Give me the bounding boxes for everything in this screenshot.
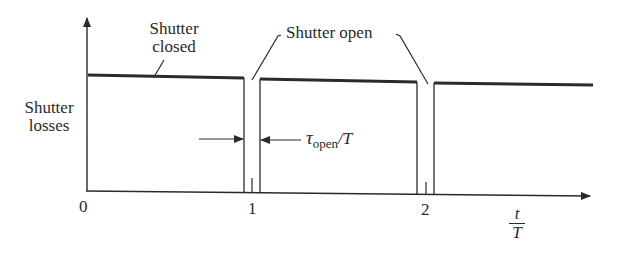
tau-over-T: /T [338,129,352,148]
tau-subscript: open [313,136,338,151]
closed-leader [154,60,164,77]
tick-label-1: 1 [248,200,257,218]
tick-label-2: 2 [421,201,430,219]
tick-label-0: 0 [79,198,88,216]
x-axis [86,191,590,196]
shutter-loss-diagram: Shutter closed Shutter open Shutter loss… [0,0,617,253]
open-leader-left [252,35,281,80]
shutter-closed-line2: closed [134,38,214,56]
y-axis-label-line2: losses [14,117,84,135]
y-axis-label: Shutter losses [14,99,84,135]
tau-symbol: τ [306,127,313,148]
y-axis-label-line1: Shutter [14,99,84,117]
shutter-open-label: Shutter open [286,24,372,42]
shutter-closed-label: Shutter closed [134,20,214,56]
x-axis-label-numerator: t [506,205,528,222]
shutter-closed-line1: Shutter [134,20,214,38]
open-leader-right [396,34,428,84]
tau-label: τopen/T [306,129,352,153]
x-axis-label-denominator: T [506,224,528,241]
x-axis-label: t T [506,205,528,241]
